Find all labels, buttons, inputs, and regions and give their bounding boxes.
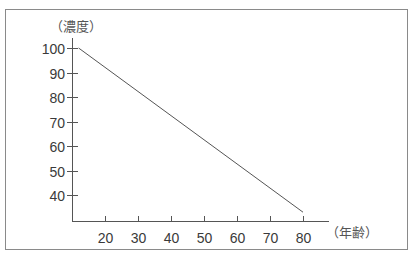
x-tick-label: 60 xyxy=(230,230,246,246)
x-tick-label: 30 xyxy=(131,230,147,246)
data-series xyxy=(79,48,303,212)
y-tick-label: 70 xyxy=(49,115,65,131)
y-tick-label: 80 xyxy=(49,90,65,106)
x-tick-label: 50 xyxy=(197,230,213,246)
y-axis-title: （濃度） xyxy=(50,19,102,34)
y-tick-label: 50 xyxy=(49,164,65,180)
x-tick-label: 40 xyxy=(164,230,180,246)
x-tick-label: 80 xyxy=(296,230,312,246)
y-tick-label: 60 xyxy=(49,139,65,155)
series-line xyxy=(79,48,303,212)
y-tick-label: 90 xyxy=(49,66,65,82)
x-axis-title: （年齢） xyxy=(326,225,378,240)
x-tick-label: 70 xyxy=(263,230,279,246)
x-ticks: 20304050607080 xyxy=(98,216,312,246)
chart-frame xyxy=(6,10,408,250)
y-tick-label: 100 xyxy=(42,41,66,57)
x-tick-label: 20 xyxy=(98,230,114,246)
y-tick-label: 40 xyxy=(49,188,65,204)
line-chart: （濃度） （年齢） 405060708090100 20304050607080 xyxy=(0,0,411,255)
